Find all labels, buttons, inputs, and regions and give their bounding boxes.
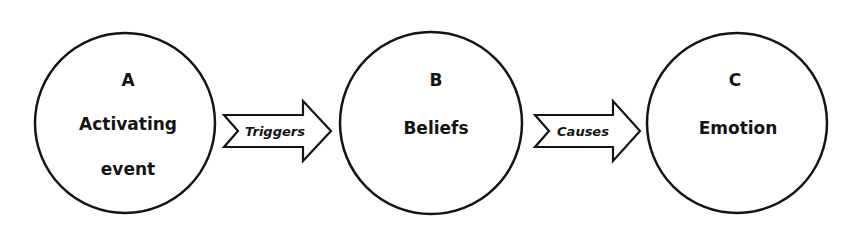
triggers-arrow-label: Triggers	[245, 124, 305, 139]
node-a-label-line1: Activating	[79, 114, 177, 134]
node-c-letter: C	[729, 70, 741, 90]
abc-model-diagram	[0, 0, 865, 226]
node-a-label-line2: event	[101, 159, 155, 179]
node-b-label: Beliefs	[403, 118, 468, 138]
node-c-label: Emotion	[699, 118, 778, 138]
node-a-letter: A	[121, 70, 134, 90]
causes-arrow-label: Causes	[557, 124, 609, 139]
node-b-letter: B	[430, 70, 443, 90]
